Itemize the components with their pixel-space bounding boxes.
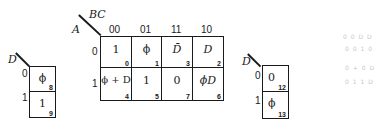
main-kmap-cell-1: ϕ 1 [132, 37, 162, 68]
main-kmap-cell-4: ϕ + D 4 [101, 68, 132, 100]
right-kmap-cell-12: 0 12 [263, 66, 288, 92]
main-kmap-grid: 1 0 ϕ 1 D̄ 3 D 2 ϕ + D 4 1 5 0 7 ϕD 6 [100, 36, 224, 101]
main-kmap-col-var: BC [89, 8, 106, 21]
left-kmap-diagonal [15, 52, 29, 66]
main-kmap-col-00: 00 [109, 24, 120, 35]
left-kmap-var: D [8, 53, 17, 66]
main-kmap-col-01: 01 [140, 24, 151, 35]
right-kmap-row-0: 0 [255, 70, 261, 81]
main-kmap-row-var: A [72, 23, 80, 36]
right-kmap-var: D [242, 55, 251, 68]
main-kmap-cell-0: 1 0 [101, 37, 132, 68]
right-kmap-grid: 0 12 ϕ 13 [262, 65, 289, 119]
left-kmap-grid: ϕ 8 1 9 [29, 66, 56, 118]
right-kmap-row-1: 1 [255, 95, 261, 106]
main-kmap-cell-5: 1 5 [132, 68, 162, 100]
main-kmap-row-0: 0 [92, 46, 98, 57]
main-kmap-row-1: 1 [92, 78, 98, 89]
left-kmap-row-0: 0 [22, 68, 28, 79]
main-kmap-cell-7: 0 7 [162, 68, 193, 100]
left-kmap-row-1: 1 [22, 92, 28, 103]
main-kmap-cell-3: D̄ 3 [162, 37, 193, 68]
main-kmap-cell-6: ϕD 6 [193, 68, 223, 100]
left-kmap-cell-9: 1 9 [30, 92, 55, 117]
main-kmap-cell-2: D 2 [193, 37, 223, 68]
left-kmap-cell-8: ϕ 8 [30, 67, 55, 92]
main-kmap-col-11: 11 [171, 24, 181, 35]
right-kmap-cell-13: ϕ 13 [263, 92, 288, 118]
main-kmap-col-10: 10 [201, 24, 212, 35]
